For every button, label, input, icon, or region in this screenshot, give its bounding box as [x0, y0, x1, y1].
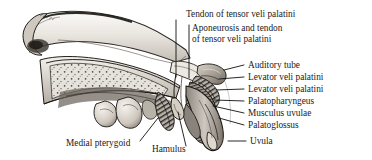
label-line: Medial pterygoid	[66, 138, 131, 148]
label-auditory-tube: Auditory tube	[248, 60, 300, 70]
label-line: Aponeurosis and tendon	[192, 23, 283, 33]
label-line: Hamulus	[152, 144, 186, 154]
label-line: Levator veli palatini	[248, 84, 324, 94]
label-line: Tendon of tensor veli palatini	[186, 9, 296, 19]
label-levator-veli-palatini-upper: Levator veli palatini	[248, 72, 324, 82]
anatomy-figure: Tendon of tensor veli palatiniAponeurosi…	[0, 0, 372, 160]
label-line: Musculus uvulae	[248, 108, 311, 118]
label-line: of tensor veli palatini	[192, 34, 272, 44]
label-line: Palatopharyngeus	[248, 96, 314, 106]
label-musculus-uvulae: Musculus uvulae	[248, 108, 311, 118]
label-line: Uvula	[250, 136, 273, 146]
label-uvula: Uvula	[250, 136, 273, 146]
label-line: Palatoglossus	[248, 120, 299, 130]
label-medial-pterygoid: Medial pterygoid	[66, 138, 131, 148]
label-aponeurosis-and-tendon-of-tensor-veli-palatini: Aponeurosis and tendonof tensor veli pal…	[192, 23, 283, 44]
label-levator-veli-palatini-lower: Levator veli palatini	[248, 84, 324, 94]
label-palatoglossus: Palatoglossus	[248, 120, 299, 130]
label-palatopharyngeus: Palatopharyngeus	[248, 96, 314, 106]
label-line: Levator veli palatini	[248, 72, 324, 82]
label-hamulus: Hamulus	[152, 144, 186, 154]
label-line: Auditory tube	[248, 60, 300, 70]
label-tendon-of-tensor-veli-palatini: Tendon of tensor veli palatini	[186, 9, 296, 19]
